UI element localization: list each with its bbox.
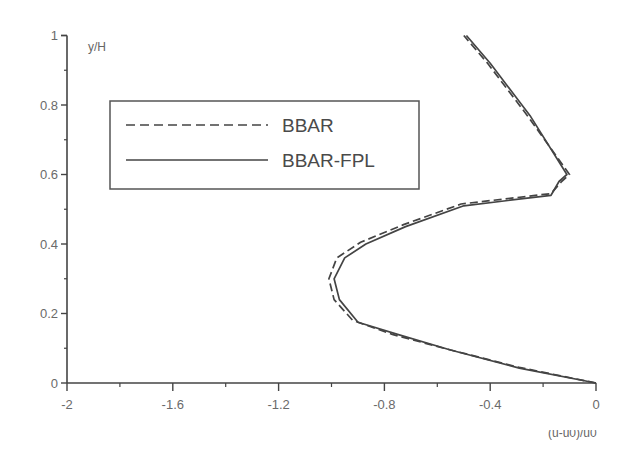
x-tick-label: -1.6 xyxy=(162,397,184,412)
y-tick-label: 0.4 xyxy=(40,237,58,252)
x-tick-label: -1.2 xyxy=(267,397,289,412)
y-tick-label: 0 xyxy=(51,376,58,391)
x-tick-label: -0.8 xyxy=(373,397,395,412)
y-tick-label: 0.2 xyxy=(40,306,58,321)
x-axis-title: (u-u0)/u0 xyxy=(548,426,597,440)
x-tick-label: -0.4 xyxy=(479,397,501,412)
legend: BBAR BBAR-FPL xyxy=(110,101,419,189)
x-tick-label: -2 xyxy=(61,397,73,412)
y-tick-label: 0.8 xyxy=(40,98,58,113)
x-tick-label: 0 xyxy=(592,397,599,412)
axes: 00.20.40.60.81-2-1.6-1.2-0.8-0.40 xyxy=(40,28,600,412)
line-chart: 00.20.40.60.81-2-1.6-1.2-0.8-0.40 BBAR B… xyxy=(0,0,626,456)
legend-label-bbar-fpl: BBAR-FPL xyxy=(282,150,375,171)
y-axis-title: y/H xyxy=(88,40,106,54)
legend-label-bbar: BBAR xyxy=(282,115,334,136)
series-bbar xyxy=(329,36,596,384)
legend-box xyxy=(110,101,419,189)
y-tick-label: 0.6 xyxy=(40,167,58,182)
series-layer xyxy=(329,36,596,384)
x-axis-title-clipped: (u-u0)/u0 xyxy=(548,426,597,440)
y-tick-label: 1 xyxy=(51,28,58,43)
series-bbar-fpl xyxy=(334,36,596,384)
